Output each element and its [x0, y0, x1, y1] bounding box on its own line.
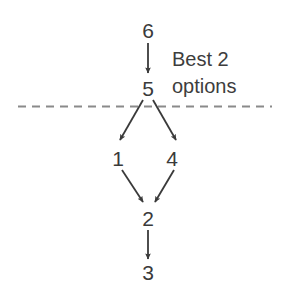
edge-4-to-2	[155, 170, 174, 202]
node-5: 5	[128, 78, 168, 99]
best-options-annotation: Best 2 options	[172, 46, 237, 100]
diagram-canvas	[0, 0, 286, 304]
flow-diagram-figure: 6 5 1 4 2 3 Best 2 options	[0, 0, 286, 304]
annotation-line-1: Best 2	[172, 46, 237, 73]
edge-1-to-2	[122, 170, 143, 202]
annotation-line-2: options	[172, 73, 237, 100]
node-6: 6	[128, 20, 168, 41]
node-3: 3	[128, 262, 168, 283]
node-4: 4	[152, 148, 192, 169]
node-2: 2	[128, 208, 168, 229]
node-1: 1	[98, 148, 138, 169]
